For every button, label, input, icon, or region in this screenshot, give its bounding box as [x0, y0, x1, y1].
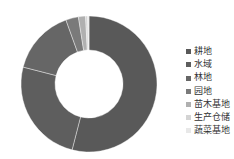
donut-segment-1 — [21, 67, 81, 150]
legend-label: 耕地 — [194, 45, 212, 58]
legend-swatch — [186, 128, 191, 133]
legend-swatch — [186, 62, 191, 67]
legend-item: 苗木基地 — [186, 98, 230, 111]
legend-swatch — [186, 49, 191, 54]
legend-label: 蔬菜基地 — [194, 124, 230, 137]
legend-item: 园地 — [186, 85, 230, 98]
legend-item: 生产仓储 — [186, 111, 230, 124]
legend-swatch — [186, 102, 191, 107]
legend-swatch — [186, 115, 191, 120]
legend-item: 蔬菜基地 — [186, 124, 230, 137]
legend-swatch — [186, 76, 191, 81]
legend-label: 生产仓储 — [194, 111, 230, 124]
legend-label: 水域 — [194, 58, 212, 71]
legend-swatch — [186, 89, 191, 94]
legend-label: 林地 — [194, 71, 212, 84]
legend-item: 水域 — [186, 58, 230, 71]
legend-item: 林地 — [186, 71, 230, 84]
legend-label: 苗木基地 — [194, 98, 230, 111]
chart-legend: 耕地 水域 林地 园地 苗木基地 生产仓储 蔬菜基地 — [186, 45, 230, 137]
legend-label: 园地 — [194, 85, 212, 98]
legend-item: 耕地 — [186, 45, 230, 58]
